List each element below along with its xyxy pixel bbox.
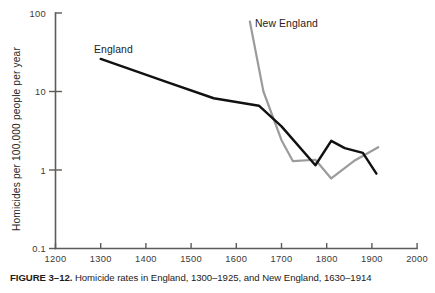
figure-caption-body: Homicide rates in England, 1300–1925, an… [72,272,371,283]
y-tick-label-10: 10 [35,87,46,97]
x-tick-marks [56,243,418,249]
chart-plot-area: 100 10 1 0.1 1200 1300 1400 1500 1600 17… [0,0,435,262]
x-tick-label-1200: 1200 [45,254,67,262]
y-tick-label-0-1: 0.1 [32,244,46,254]
series-label-england: England [94,44,133,55]
x-tick-label-1900: 1900 [361,254,383,262]
x-tick-label-1800: 1800 [316,254,338,262]
x-tick-label-1500: 1500 [180,254,202,262]
series-line-new-england [250,21,378,178]
series-line-england [101,59,377,174]
x-tick-label-2000: 2000 [406,254,428,262]
chart-svg: 100 10 1 0.1 1200 1300 1400 1500 1600 17… [0,0,435,262]
x-tick-label-1300: 1300 [90,254,112,262]
figure-caption: FIGURE 3–12. Homicide rates in England, … [10,272,372,283]
x-tick-label-1700: 1700 [271,254,293,262]
x-tick-label-1600: 1600 [225,254,247,262]
figure-caption-bar: FIGURE 3–12. Homicide rates in England, … [0,262,435,293]
y-tick-label-1: 1 [41,166,46,176]
x-tick-label-1400: 1400 [135,254,157,262]
figure-caption-label: FIGURE 3–12. [10,272,72,283]
y-axis-title: Homicides per 100,000 people per year [11,47,22,231]
figure-container: 100 10 1 0.1 1200 1300 1400 1500 1600 17… [0,0,435,293]
series-label-new-england: New England [255,18,318,29]
y-tick-label-100: 100 [30,9,46,19]
